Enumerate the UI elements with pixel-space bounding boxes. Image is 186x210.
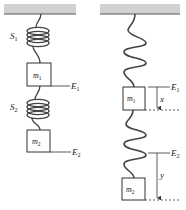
spring-stretched-1 [124,14,146,87]
ceiling-left [4,4,76,14]
spring-s2 [27,86,49,130]
left-panel: S1 m1 E1 S2 m2 E2 [4,4,81,158]
equilibrium-label-e1-left: E1 [70,81,80,92]
spring-stretched-2 [124,110,146,178]
mass-m1-left: m1 [27,63,51,86]
spring-label-s1: S1 [10,31,18,42]
displacement-label-x: x [159,94,164,104]
mass-m2-right: m2 [122,178,145,200]
spring-s1 [27,14,49,63]
ceiling-right [100,4,180,14]
right-panel: m1 E1 x E2 m2 y [100,4,180,200]
mass-m2-left: m2 [27,130,50,152]
equilibrium-label-e2-left: E2 [71,147,81,158]
equilibrium-label-e2-right: E2 [170,148,180,159]
equilibrium-label-e1-right: E1 [170,82,180,93]
spring-label-s2: S2 [10,102,18,113]
coupled-spring-mass-diagram: S1 m1 E1 S2 m2 E2 [0,0,186,210]
displacement-label-y: y [159,170,164,180]
mass-m1-right: m1 [123,87,145,110]
